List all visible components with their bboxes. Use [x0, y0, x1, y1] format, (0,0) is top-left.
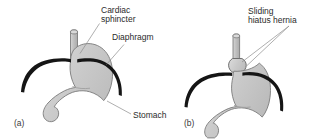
label-diaphragm: Diaphragm: [112, 32, 154, 42]
leader-diaphragm: [107, 45, 125, 65]
label-hernia-line2: hiatus hernia: [248, 15, 297, 25]
leader-hernia: [247, 26, 290, 66]
panel-label-a: (a): [14, 118, 25, 128]
panel-b: Sliding hiatus hernia (b): [184, 6, 297, 138]
diaphragm-left-a: [21, 58, 71, 92]
leader-hernia-secondary: [242, 26, 289, 62]
diaphragm-left-b: [185, 72, 233, 107]
anatomy-diagram-svg: Cardiac sphincter Diaphragm Stomach (a): [0, 0, 317, 139]
panel-label-b: (b): [184, 118, 195, 128]
hiatus-hernia-figure: Cardiac sphincter Diaphragm Stomach (a): [0, 0, 317, 139]
stomach-shape-a: [43, 44, 112, 122]
panel-a: Cardiac sphincter Diaphragm Stomach (a): [14, 5, 167, 128]
esophagus-b: [233, 34, 240, 60]
label-stomach: Stomach: [133, 110, 167, 120]
label-cardiac-sphincter-line2: sphincter: [101, 14, 136, 24]
leader-stomach: [107, 101, 131, 114]
